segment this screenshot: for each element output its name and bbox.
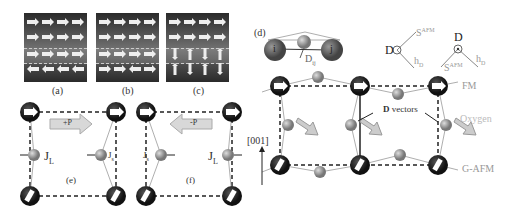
legend2-h: hD	[476, 53, 485, 66]
spin-arrow-up	[172, 63, 178, 75]
axis-001-label: [001]	[247, 135, 269, 146]
spin-arrow-right	[57, 18, 69, 26]
minus-p-label: -P	[190, 118, 197, 127]
spin-arrow-left	[42, 65, 54, 73]
label-d: (d)	[254, 27, 266, 38]
plus-p-label: +P	[63, 118, 72, 127]
spin-arrow-right	[199, 18, 211, 26]
spin-arrow-right	[42, 18, 54, 26]
spin-arrow-up	[202, 63, 208, 75]
spin-arrow-right	[129, 33, 141, 41]
e-js: Js	[108, 150, 114, 162]
label-f: (f)	[186, 175, 195, 185]
spin-arrow-right	[184, 33, 196, 41]
label-e: (e)	[66, 175, 76, 185]
spin-arrow-right	[99, 65, 111, 73]
legend2-s: SAFM	[444, 62, 463, 73]
legend1-h: hD	[414, 55, 423, 68]
spin-arrow-left	[57, 65, 69, 73]
spin-arrow-down	[187, 63, 193, 75]
spin-arrow-right	[42, 50, 54, 58]
spin-arrow-down	[217, 63, 223, 75]
spin-arrow-right	[129, 50, 141, 58]
spin-arrow-right	[169, 33, 181, 41]
spin-arrow-right	[184, 18, 196, 26]
spin-arrow-right	[27, 18, 39, 26]
oxygen-label: Oxygen	[460, 113, 492, 124]
spin-arrow-right	[99, 18, 111, 26]
d-vectors-label: D vectors	[383, 104, 418, 114]
spin-arrow-down	[202, 48, 208, 60]
spin-arrow-right	[72, 50, 84, 58]
dij-label: Dij	[305, 53, 316, 66]
legend1-d: D	[385, 43, 394, 58]
spin-arrow-right	[144, 18, 156, 26]
atom-i-label: i	[273, 43, 276, 54]
fm-label: FM	[462, 80, 476, 91]
spin-arrow-right	[199, 33, 211, 41]
spin-arrow-right	[27, 50, 39, 58]
f-js: Js	[143, 150, 149, 162]
spin-arrow-right	[114, 65, 126, 73]
spin-arrow-right	[99, 50, 111, 58]
spin-arrow-right	[27, 33, 39, 41]
legend1-s: SAFM	[416, 27, 435, 38]
spin-arrows	[27, 18, 226, 75]
spin-arrow-right	[214, 33, 226, 41]
spin-arrow-right	[42, 33, 54, 41]
spin-arrow-right	[144, 33, 156, 41]
spin-arrow-right	[57, 50, 69, 58]
f-jl: JL	[208, 148, 218, 166]
spin-arrow-left	[27, 65, 39, 73]
spin-arrow-right	[72, 18, 84, 26]
spin-arrow-left	[129, 65, 141, 73]
spin-arrow-right	[144, 65, 156, 73]
spin-arrow-right	[129, 18, 141, 26]
spin-arrow-right	[57, 33, 69, 41]
legend2-d: D	[454, 30, 463, 45]
spin-arrow-right	[114, 33, 126, 41]
e-jl: JL	[44, 148, 54, 166]
spin-arrow-right	[114, 18, 126, 26]
atom-j-label: j	[330, 43, 333, 54]
spin-arrow-right	[144, 50, 156, 58]
spin-arrow-right	[114, 50, 126, 58]
spin-arrow-up	[217, 48, 223, 60]
spin-arrow-right	[214, 18, 226, 26]
spin-arrow-left	[72, 65, 84, 73]
g-afm-label: G-AFM	[462, 163, 494, 174]
spin-arrow-down	[172, 48, 178, 60]
spin-arrow-right	[72, 33, 84, 41]
spin-arrow-up	[187, 48, 193, 60]
spin-arrow-right	[169, 18, 181, 26]
spin-arrow-right	[99, 33, 111, 41]
